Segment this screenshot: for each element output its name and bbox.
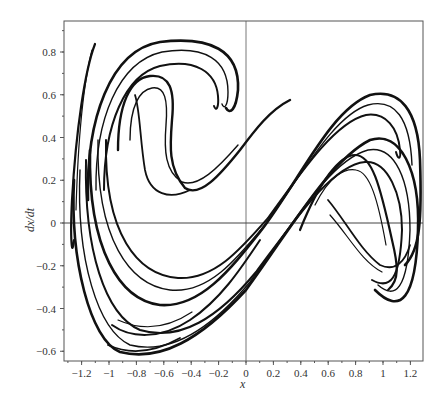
y-axis-label: dx/dt (23, 207, 37, 232)
x-tick-label: 1.2 (404, 367, 418, 379)
x-tick-label: 0.2 (267, 367, 281, 379)
y-tick-label: 0.8 (42, 46, 56, 58)
x-tick-label: −0.8 (126, 367, 146, 379)
x-tick-label: 1 (380, 367, 386, 379)
x-tick-label: −1.2 (72, 367, 92, 379)
y-tick-label: 0.2 (42, 174, 56, 186)
x-tick-label: −0.6 (154, 367, 174, 379)
y-tick-label: −0.2 (36, 260, 56, 272)
x-tick-label: 0.8 (349, 367, 363, 379)
phase-portrait-chart: −1.2−1−0.8−0.6−0.4−0.200.20.40.60.811.2−… (0, 0, 446, 407)
y-tick-label: 0 (51, 217, 57, 229)
y-tick-label: −0.4 (36, 303, 56, 315)
y-tick-label: −0.6 (36, 345, 56, 357)
x-tick-label: 0.4 (294, 367, 308, 379)
x-tick-label: −0.2 (209, 367, 229, 379)
y-tick-label: 0.4 (42, 132, 56, 144)
y-tick-label: 0.6 (42, 89, 56, 101)
x-tick-label: 0.6 (321, 367, 335, 379)
x-axis-label: x (239, 377, 246, 391)
plot-frame (64, 21, 423, 361)
axis-ticks (60, 31, 410, 365)
x-tick-label: −0.4 (181, 367, 201, 379)
x-tick-label: −1 (103, 367, 115, 379)
